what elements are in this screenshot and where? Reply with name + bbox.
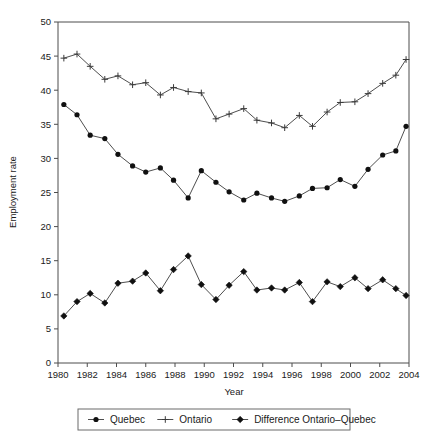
data-point-marker [338,177,343,182]
y-tick-label: 20 [40,221,51,232]
data-point-marker [61,55,68,62]
data-point-marker [324,279,330,285]
data-point-marker [198,90,205,97]
y-tick-label: 25 [40,187,51,198]
data-point-marker [254,287,260,293]
data-point-marker [241,197,246,202]
x-tick-label: 1986 [135,369,156,380]
data-point-marker [185,88,192,95]
data-point-marker [254,191,259,196]
data-point-marker [158,165,163,170]
chart-legend: QuebecOntarioDifference Ontario–Quebec [78,409,376,430]
data-point-marker [199,168,204,173]
data-point-marker [380,152,385,157]
data-point-marker [269,195,274,200]
y-tick-label: 5 [46,323,51,334]
y-tick-label: 10 [40,289,51,300]
x-tick-label: 1988 [164,369,185,380]
y-tick-label: 35 [40,119,51,130]
data-point-marker [403,124,408,129]
legend-item-difference-ontario-quebec[interactable]: Difference Ontario–Quebec [232,414,376,425]
x-axis-ticks: 1980198219841986198819901992199419961998… [47,363,419,380]
data-point-marker [379,277,385,283]
x-tick-label: 1996 [281,369,302,380]
y-tick-label: 30 [40,153,51,164]
data-point-marker [403,56,410,63]
data-point-marker [143,169,148,174]
data-point-marker [130,163,135,168]
series-polyline [64,256,406,316]
x-tick-label: 1998 [311,369,332,380]
data-point-marker [309,298,315,304]
series-ontario [61,51,410,131]
x-tick-label: 1990 [194,369,215,380]
data-point-marker [213,180,218,185]
data-point-marker [186,195,191,200]
data-point-marker [379,80,386,87]
series-quebec [61,102,408,204]
data-point-marker [296,279,302,285]
data-point-marker [365,167,370,172]
data-point-marker [227,189,232,194]
x-tick-label: 2000 [340,369,361,380]
data-point-marker [393,72,400,79]
data-point-marker [87,290,93,296]
x-tick-label: 1980 [47,369,68,380]
plot-border [58,22,409,363]
data-point-marker [170,84,177,91]
data-point-marker [365,90,372,97]
data-point-marker [115,152,120,157]
series-polyline [64,54,406,128]
data-point-marker [115,280,121,286]
data-point-marker [102,136,107,141]
data-point-marker [352,98,359,105]
data-point-marker [61,102,66,107]
data-point-marker [74,112,79,117]
legend-item-label: Ontario [179,414,212,425]
y-tick-label: 50 [40,16,51,27]
y-tick-label: 40 [40,85,51,96]
data-point-marker [310,186,315,191]
y-tick-label: 0 [46,357,51,368]
data-point-marker [281,287,287,293]
data-point-marker [282,199,287,204]
legend-item-label: Difference Ontario–Quebec [254,414,376,425]
plot-frame [58,22,409,363]
x-tick-label: 1994 [252,369,273,380]
data-point-marker [268,285,274,291]
data-point-marker [297,193,302,198]
data-point-marker [325,185,330,190]
data-point-marker [129,278,135,284]
x-tick-label: 2002 [369,369,390,380]
data-point-marker [129,81,136,88]
x-tick-label: 2004 [398,369,419,380]
series-layer [61,51,410,319]
data-point-marker [393,285,399,291]
data-point-marker [171,178,176,183]
data-point-marker [93,417,98,422]
data-point-marker [352,184,357,189]
data-point-marker [403,292,409,298]
data-point-marker [226,111,233,118]
y-axis-ticks: 05101520253035404550 [40,16,58,368]
x-axis-title: Year [224,386,243,397]
y-axis-title: Employment rate [7,156,18,228]
data-point-marker [115,73,122,80]
data-point-marker [337,283,343,289]
data-point-marker [213,116,220,123]
series-difference-ontario-quebec [61,253,410,319]
x-tick-label: 1992 [223,369,244,380]
data-point-marker [393,148,398,153]
x-tick-label: 1982 [77,369,98,380]
data-point-marker [337,99,344,106]
x-tick-label: 1984 [106,369,127,380]
data-point-marker [102,300,108,306]
y-tick-label: 15 [40,255,51,266]
chart-figure: 05101520253035404550 1980198219841986198… [0,0,430,445]
data-point-marker [268,120,275,127]
data-point-marker [88,133,93,138]
y-tick-label: 45 [40,51,51,62]
legend-item-label: Quebec [110,414,145,425]
employment-rate-line-chart: 05101520253035404550 1980198219841986198… [0,0,430,445]
